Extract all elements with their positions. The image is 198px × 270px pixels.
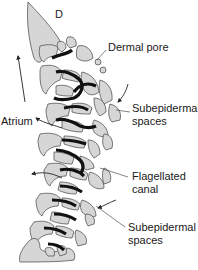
- leader-dermal-pore: [97, 50, 106, 60]
- incurrent-arrow-top: [118, 84, 128, 102]
- label-flagellated-canal: Flagellated canal: [132, 170, 186, 196]
- label-dermal-pore-text: Dermal pore: [108, 41, 169, 54]
- label-atrium: Atrium: [1, 115, 33, 128]
- label-subepidermal-bottom-line1: Subepidermal: [128, 221, 196, 234]
- incurrent-arrow-bottom: [98, 200, 116, 208]
- label-subepidermal-spaces-bottom: Subepidermal spaces: [128, 221, 196, 247]
- sponge-body: [19, 2, 120, 262]
- leader-subepidermal-bottom: [96, 206, 125, 227]
- label-flagellated-line1: Flagellated: [132, 170, 186, 183]
- panel-letter: D: [55, 8, 63, 21]
- excurrent-flow-arrow: [18, 56, 25, 102]
- label-subepidermal-top-line1: Subepidermal: [132, 102, 198, 115]
- label-atrium-text: Atrium: [1, 115, 33, 128]
- label-flagellated-line2: canal: [132, 183, 186, 196]
- label-dermal-pore: Dermal pore: [108, 41, 169, 54]
- label-subepidermal-spaces-top: Subepidermal spaces: [132, 102, 198, 128]
- label-subepidermal-bottom-line2: spaces: [128, 234, 196, 247]
- leader-lines: [96, 50, 130, 227]
- label-subepidermal-top-line2: spaces: [132, 115, 198, 128]
